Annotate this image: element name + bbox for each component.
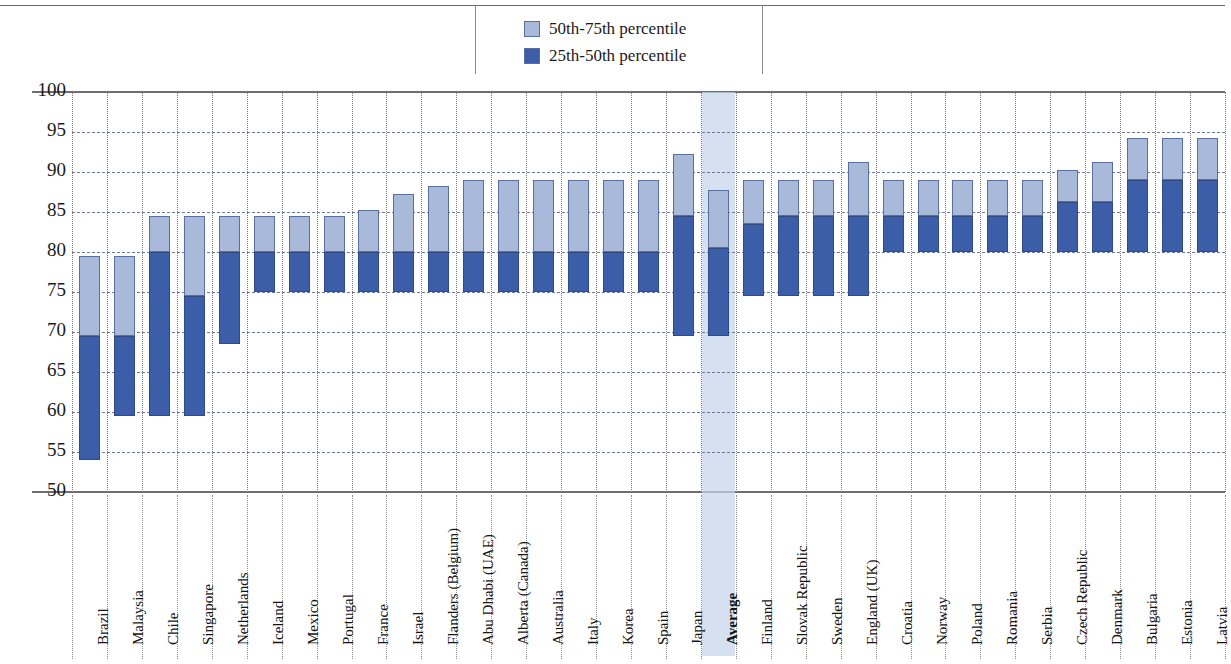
category-separator: [980, 92, 981, 492]
bar-segment-lower: [987, 216, 1008, 252]
bar: [463, 92, 484, 492]
category-separator: [1015, 92, 1016, 492]
x-tick-label: Denmark: [1109, 589, 1126, 645]
bar: [254, 92, 275, 492]
x-tick-label: Sweden: [829, 598, 846, 646]
bar: [428, 92, 449, 492]
bar-segment-upper: [1197, 138, 1218, 180]
category-separator: [701, 92, 702, 492]
bar-segment-upper: [848, 162, 869, 216]
plot-area: [72, 92, 1225, 492]
category-separator: [491, 92, 492, 492]
bar-segment-lower: [883, 216, 904, 252]
category-separator: [386, 92, 387, 492]
bar: [289, 92, 310, 492]
bar: [638, 92, 659, 492]
bar: [1092, 92, 1113, 492]
bar-segment-lower: [114, 336, 135, 416]
bar-segment-upper: [219, 216, 240, 252]
bar-segment-upper: [638, 180, 659, 252]
category-separator: [317, 92, 318, 492]
category-separator: [1225, 92, 1226, 492]
category-separator: [421, 92, 422, 492]
bar: [987, 92, 1008, 492]
category-separator: [876, 92, 877, 492]
bar-segment-lower: [1057, 202, 1078, 252]
bar-segment-lower: [289, 252, 310, 292]
x-tick-label: Korea: [620, 608, 637, 645]
legend-rule-right: [762, 5, 1225, 6]
bar: [149, 92, 170, 492]
y-tick-label: 95: [32, 119, 66, 141]
x-tick-label: Flanders (Belgium): [445, 528, 462, 645]
bar: [848, 92, 869, 492]
category-separator: [72, 92, 73, 492]
bar: [219, 92, 240, 492]
bar-segment-upper: [1022, 180, 1043, 216]
bar-segment-lower: [463, 252, 484, 292]
x-tick-label: Spain: [655, 611, 672, 645]
bar: [533, 92, 554, 492]
bar-segment-lower: [393, 252, 414, 292]
x-tick-label: Croatia: [899, 601, 916, 645]
bar: [358, 92, 379, 492]
category-separator: [596, 92, 597, 492]
bar: [1197, 92, 1218, 492]
bar-segment-upper: [79, 256, 100, 336]
bar: [778, 92, 799, 492]
x-tick-label: France: [375, 604, 392, 645]
category-separator: [561, 92, 562, 492]
x-tick-label: Norway: [934, 597, 951, 645]
bar: [114, 92, 135, 492]
bar-segment-upper: [1057, 170, 1078, 202]
bar-segment-upper: [463, 180, 484, 252]
bar-segment-upper: [778, 180, 799, 216]
y-tick-label: 55: [32, 439, 66, 461]
category-separator: [1120, 92, 1121, 492]
x-tick-label: Mexico: [305, 599, 322, 645]
x-tick-label: Japan: [689, 611, 706, 645]
bar-segment-upper: [673, 154, 694, 216]
legend-item-upper: 50th-75th percentile: [524, 19, 686, 39]
category-separator-lower: [72, 495, 73, 659]
bar-segment-lower: [1127, 180, 1148, 252]
x-tick-label: Estonia: [1179, 600, 1196, 645]
x-tick-label: Average: [724, 593, 741, 645]
bar: [568, 92, 589, 492]
y-tick-label: 65: [32, 359, 66, 381]
x-tick-label: Malaysia: [130, 590, 147, 645]
bar-segment-lower: [568, 252, 589, 292]
bar: [952, 92, 973, 492]
bar-segment-lower: [184, 296, 205, 416]
bar: [883, 92, 904, 492]
y-tick-label: 100: [32, 79, 66, 101]
legend-item-lower: 25th-50th percentile: [524, 46, 686, 66]
bar-segment-upper: [918, 180, 939, 216]
y-tick-label: 70: [32, 319, 66, 341]
bar-segment-lower: [673, 216, 694, 336]
category-separator: [107, 92, 108, 492]
legend-label-lower: 25th-50th percentile: [549, 46, 686, 66]
y-tick-label: 85: [32, 199, 66, 221]
bar-segment-upper: [428, 186, 449, 252]
bar-segment-upper: [708, 190, 729, 248]
x-tick-label: Latvia: [1214, 607, 1231, 645]
category-separator: [945, 92, 946, 492]
bar: [1127, 92, 1148, 492]
category-separator: [1190, 92, 1191, 492]
bar-segment-upper: [1127, 138, 1148, 180]
bar-segment-upper: [393, 194, 414, 252]
category-separator: [456, 92, 457, 492]
category-separator: [177, 92, 178, 492]
x-tick-label: Romania: [1004, 591, 1021, 645]
x-tick-label: Czech Republic: [1074, 550, 1091, 645]
bar-segment-upper: [1162, 138, 1183, 180]
bar-segment-upper: [533, 180, 554, 252]
bar: [1162, 92, 1183, 492]
bar-segment-lower: [1197, 180, 1218, 252]
bar: [743, 92, 764, 492]
legend-label-upper: 50th-75th percentile: [549, 19, 686, 39]
category-separator: [841, 92, 842, 492]
x-tick-label: Brazil: [95, 608, 112, 645]
category-separator: [282, 92, 283, 492]
